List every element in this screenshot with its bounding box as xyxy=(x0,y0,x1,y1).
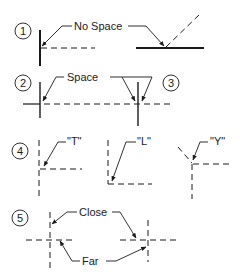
t-label: "T" xyxy=(67,135,82,147)
leader-arrow-left xyxy=(42,26,72,46)
leader-arrow-space-3a xyxy=(122,77,135,101)
leader-arrow-space-2 xyxy=(43,77,64,101)
section-2-3: 2 3 Space xyxy=(15,71,179,126)
y-angled-hidden-line xyxy=(178,147,192,163)
section-2-number: 2 xyxy=(20,77,26,89)
section-1-number: 1 xyxy=(20,25,26,37)
t-leader-arrow xyxy=(44,142,66,166)
section-4-number: 4 xyxy=(17,145,23,157)
y-leader-arrow xyxy=(193,142,208,160)
leader-arrow-right xyxy=(128,26,164,46)
section-3-number: 3 xyxy=(168,77,174,89)
l-label: "L" xyxy=(137,135,151,147)
line-intersection-diagram: 1 No Space 2 3 Space 4 "T" "L" xyxy=(0,0,240,279)
section-4: 4 "T" "L" "Y" xyxy=(12,135,232,199)
section-1: 1 No Space xyxy=(15,14,204,66)
close-leader-right xyxy=(112,212,136,238)
close-leader-left xyxy=(52,212,77,224)
far-label: Far xyxy=(82,255,99,267)
y-label: "Y" xyxy=(210,135,225,147)
section-5-number: 5 xyxy=(17,212,23,224)
far-leader-left xyxy=(60,241,80,261)
close-label: Close xyxy=(79,206,107,218)
no-space-label: No Space xyxy=(74,20,122,32)
section-5: 5 Close Far xyxy=(12,206,180,268)
leader-arrow-space-3b xyxy=(110,77,152,101)
angled-hidden-line xyxy=(166,14,200,47)
l-leader-arrow xyxy=(112,142,136,181)
far-leader-right xyxy=(106,247,146,261)
space-label: Space xyxy=(67,71,98,83)
